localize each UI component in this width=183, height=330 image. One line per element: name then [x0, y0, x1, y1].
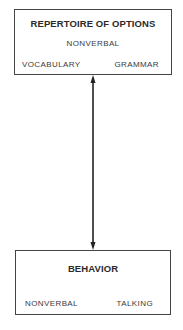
repertoire-of-options-box: REPERTOIRE OF OPTIONS NONVERBAL VOCABULA… [14, 9, 172, 75]
repertoire-grammar-label: GRAMMAR [114, 60, 159, 69]
arrow-head-up-icon [91, 75, 96, 83]
behavior-box: BEHAVIOR NONVERBAL TALKING [15, 250, 171, 315]
repertoire-title: REPERTOIRE OF OPTIONS [15, 18, 171, 29]
behavior-talking-label: TALKING [117, 299, 153, 308]
repertoire-nonverbal-label: NONVERBAL [15, 39, 171, 48]
behavior-title: BEHAVIOR [16, 263, 170, 274]
arrow-head-down-icon [91, 242, 96, 250]
behavior-nonverbal-label: NONVERBAL [25, 299, 78, 308]
repertoire-vocabulary-label: VOCABULARY [22, 60, 81, 69]
